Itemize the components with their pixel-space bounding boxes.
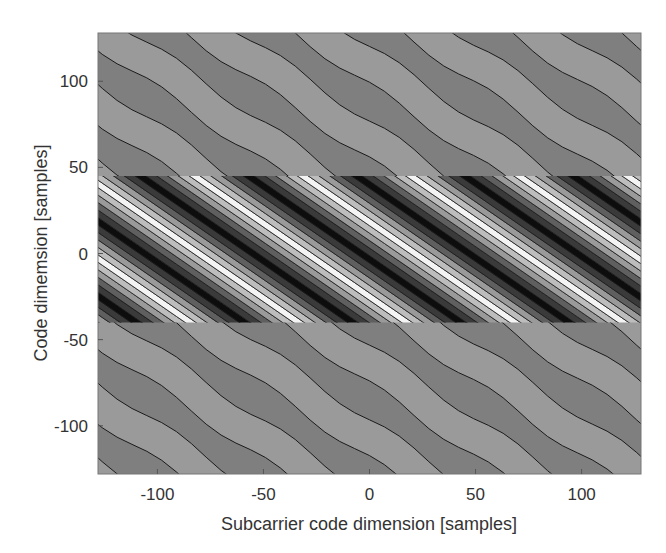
x-tick-label: -100 [140, 485, 174, 504]
y-tick-label: 0 [79, 245, 88, 264]
contour-band [73, 0, 666, 5]
y-tick-label: -50 [63, 331, 88, 350]
y-tick-label: -100 [54, 417, 88, 436]
contour-band [73, 0, 666, 27]
contour-band [73, 536, 666, 553]
y-axis-label: Code dimemsion [samples] [31, 144, 51, 361]
x-tick-label: 50 [466, 485, 485, 504]
contour-band [73, 0, 666, 20]
y-tick-label: 50 [69, 158, 88, 177]
x-tick-label: 100 [567, 485, 595, 504]
x-tick-label: 0 [365, 485, 374, 504]
y-tick-label: 100 [60, 72, 88, 91]
contour-figure: -100-50050100 -100-50050100 Subcarrier c… [0, 0, 666, 553]
y-axis-ticks: -100-50050100 [54, 72, 103, 436]
x-axis-label: Subcarrier code dimension [samples] [221, 514, 517, 534]
contour-band [73, 469, 666, 553]
contour-band [73, 461, 666, 553]
x-tick-label: -50 [251, 485, 276, 504]
contour-band [73, 543, 666, 553]
contour-band [73, 0, 666, 31]
contour-band [73, 0, 666, 35]
contour-band [73, 0, 666, 12]
